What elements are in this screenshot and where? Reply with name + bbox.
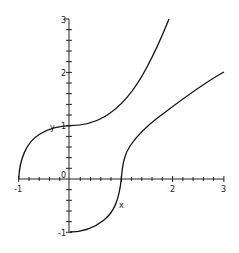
y-tick-label-neg1: -1 — [58, 229, 66, 238]
y-tick-label-3: 3 — [61, 16, 66, 25]
upper-curve — [19, 19, 169, 179]
origin-label: 0 — [61, 171, 66, 180]
y-tick-label-2: 2 — [61, 69, 66, 78]
plot-canvas: -1 0 2 3 3 2 1 -1 y x — [0, 0, 239, 253]
x-axis-name: x — [119, 201, 124, 210]
lower-curve — [70, 72, 224, 232]
x-tick-label-3: 3 — [221, 185, 226, 194]
x-tick-label-2: 2 — [170, 185, 175, 194]
x-tick-label-neg1: -1 — [14, 185, 22, 194]
